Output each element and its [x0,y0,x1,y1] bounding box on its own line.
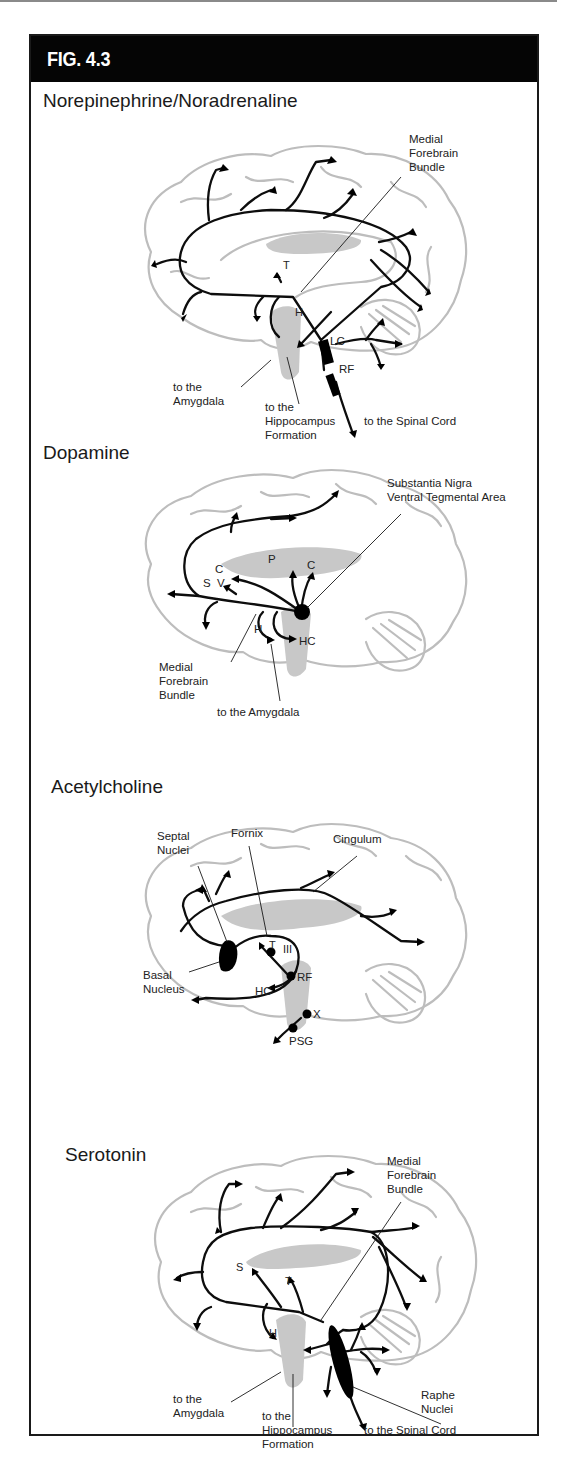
figure-title: FIG. 4.3 [47,47,110,71]
label-medial-forebrain-bundle: Medial [159,660,193,674]
page-top-rule [0,0,557,2]
serotonin-brain-diagram [31,1082,537,1438]
label-reticular-formation: RF [339,362,354,376]
label-to-amygdala: to the [173,1392,202,1406]
leader-lines [231,514,401,701]
section-serotonin: Serotonin [31,1082,537,1438]
label-septal-nuclei: Nuclei [157,843,189,857]
label-substantia-nigra: Substantia Nigra [387,476,472,490]
label-fornix: Fornix [231,826,263,840]
label-hypothalamus: H [295,305,303,319]
label-medial-forebrain-bundle: Forebrain [409,146,458,160]
label-to-hippocampus: to the [262,1409,291,1423]
section-dopamine: Dopamine [31,434,537,734]
label-hippocampus: HC [299,634,316,648]
label-cingulum: Cingulum [333,832,382,846]
label-to-hippocampus: to the [265,400,294,414]
label-thalamus: T [269,938,276,952]
figure-header: FIG. 4.3 [31,36,537,82]
label-caudate-tail: C [307,558,315,572]
pathway-arrows [173,1168,427,1431]
label-vagus-nucleus: X [313,1007,321,1021]
label-parasympathetic-ganglia: PSG [289,1034,313,1048]
label-raphe-nuclei: Raphe [421,1388,455,1402]
label-hypothalamus: H [254,622,262,636]
label-reticular-formation: RF [297,970,312,984]
label-to-hippocampus: Hippocampus [265,414,335,428]
label-hypothalamus: H [269,1326,277,1340]
label-basal-nucleus: Nucleus [143,982,185,996]
label-thalamus: T [285,1274,292,1288]
label-septal-nuclei: Septal [157,829,190,843]
label-medial-forebrain-bundle: Forebrain [387,1168,436,1182]
label-septum: S [203,576,211,590]
acetylcholine-brain-diagram [31,766,537,1086]
label-to-amygdala: Amygdala [173,1406,224,1420]
label-to-amygdala: to the [173,380,202,394]
section-norepinephrine: Norepinephrine/Noradrenaline [31,82,537,442]
label-medial-forebrain-bundle: Forebrain [159,674,208,688]
label-to-amygdala: to the Amygdala [217,705,299,719]
label-caudate: C [215,562,223,576]
section-acetylcholine: Acetylcholine [31,766,537,1086]
label-medial-forebrain-bundle: Medial [387,1154,421,1168]
label-hippocampus: HC [255,984,272,998]
label-medial-forebrain-bundle: Medial [409,132,443,146]
label-basal-nucleus: Basal [143,968,172,982]
label-medial-forebrain-bundle: Bundle [387,1182,423,1196]
label-septum: S [236,1260,243,1274]
label-locus-coeruleus: LC [330,334,345,348]
label-ventral-striatum: V [217,576,225,590]
label-oculomotor-nucleus: III [283,942,292,956]
label-to-hippocampus: Formation [262,1437,314,1451]
label-to-spinal-cord: to the Spinal Cord [364,414,456,428]
label-putamen: P [268,552,276,566]
label-thalamus: T [283,258,290,272]
label-to-spinal-cord: to the Spinal Cord [364,1423,456,1437]
label-raphe-nuclei: Nuclei [421,1402,453,1416]
label-to-hippocampus: Hippocampus [262,1423,332,1437]
label-medial-forebrain-bundle: Bundle [409,160,445,174]
figure-box: FIG. 4.3 Norepinephrine/Noradrenaline [29,34,539,1436]
label-ventral-tegmental-area: Ventral Tegmental Area [387,490,506,504]
label-medial-forebrain-bundle: Bundle [159,688,195,702]
label-to-amygdala: Amygdala [173,394,224,408]
